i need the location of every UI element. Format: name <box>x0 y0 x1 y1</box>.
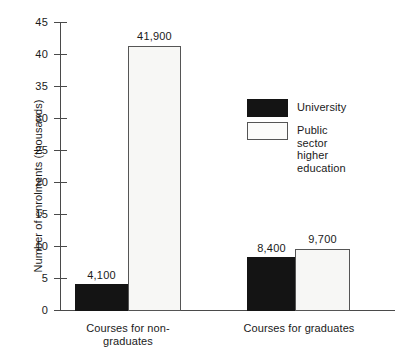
y-axis-tick <box>54 310 67 311</box>
y-axis-tick-label: 5 <box>8 273 48 284</box>
bar-value-nongraduates-public-sector: 41,900 <box>119 31 190 42</box>
y-axis-tick-label: 40 <box>8 49 48 60</box>
y-axis-tick-label: 25 <box>8 145 48 156</box>
y-axis-tick-label: 45 <box>8 17 48 28</box>
legend-label-university: University <box>297 99 346 114</box>
y-axis-tick <box>54 118 67 119</box>
y-axis-tick <box>54 182 67 183</box>
y-axis-tick-label: 10 <box>8 241 48 252</box>
y-axis-tick <box>54 150 67 151</box>
y-axis-tick-label: 30 <box>8 113 48 124</box>
bar-nongraduates-public-sector <box>128 46 181 311</box>
bar-graduates-public-sector <box>295 249 350 311</box>
y-axis-tick <box>54 22 67 23</box>
x-axis-category-label-graduates: Courses for graduates <box>239 322 359 335</box>
y-axis-tick <box>54 86 67 87</box>
legend-label-public-sector: Public sector higher education <box>297 122 346 174</box>
y-axis-tick <box>54 246 67 247</box>
y-axis-tick-label: 35 <box>8 81 48 92</box>
y-axis-line <box>60 22 61 311</box>
y-axis-tick-label: 0 <box>8 305 48 316</box>
legend-swatch-university <box>247 99 288 117</box>
bar-chart: Number of enrolments (thousands) 45 40 3… <box>0 0 412 363</box>
x-axis-category-label-non-graduates: Courses for non-graduates <box>68 322 188 348</box>
bar-value-graduates-public-sector: 9,700 <box>287 234 358 245</box>
y-axis-tick <box>54 214 67 215</box>
bar-nongraduates-university <box>75 284 128 311</box>
legend-item-public-sector: Public sector higher education <box>247 122 346 174</box>
y-axis-tick-label: 15 <box>8 209 48 220</box>
bar-value-nongraduates-university: 4,100 <box>66 270 137 281</box>
y-axis-tick-label: 20 <box>8 177 48 188</box>
y-axis-tick <box>54 54 67 55</box>
bar-graduates-university <box>247 257 295 311</box>
legend-item-university: University <box>247 99 346 117</box>
legend-swatch-public-sector <box>247 122 288 140</box>
